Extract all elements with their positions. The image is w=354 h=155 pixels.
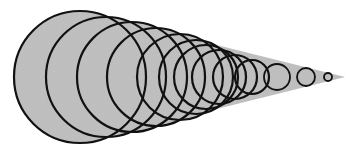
diminishing-circles-diagram xyxy=(0,0,354,155)
gray-cone xyxy=(14,11,345,143)
